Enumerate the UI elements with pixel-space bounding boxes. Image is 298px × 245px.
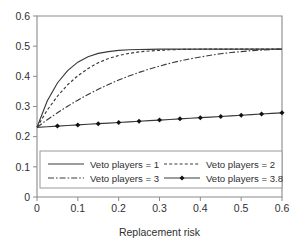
x-tick-label: 0.4 xyxy=(193,202,208,214)
y-tick-label: 0.5 xyxy=(15,40,30,52)
x-tick-label: 0 xyxy=(34,202,40,214)
line-chart: 00.10.20.30.40.50.6 00.10.20.30.40.50.6 … xyxy=(0,0,298,245)
x-tick-label: 0.3 xyxy=(152,202,167,214)
legend-label-1: Veto players = 2 xyxy=(206,159,275,170)
legend-label-0: Veto players = 1 xyxy=(90,159,159,170)
x-tick-label: 0.2 xyxy=(111,202,126,214)
x-tick-label: 0.6 xyxy=(275,202,290,214)
y-tick-label: 0.3 xyxy=(15,100,30,112)
legend-label-3: Veto players = 3.8 xyxy=(206,173,283,184)
y-axis-ticks: 00.10.20.30.40.50.6 xyxy=(15,10,37,203)
chart-figure: 00.10.20.30.40.50.6 00.10.20.30.40.50.6 … xyxy=(0,0,298,245)
x-axis-title: Replacement risk xyxy=(119,226,201,238)
y-tick-label: 0 xyxy=(24,191,30,203)
x-tick-label: 0.1 xyxy=(71,202,86,214)
chart-legend: Veto players = 1Veto players = 2Veto pla… xyxy=(40,151,283,188)
y-tick-label: 0.4 xyxy=(15,70,30,82)
x-axis-ticks: 00.10.20.30.40.50.6 xyxy=(34,197,289,214)
y-tick-label: 0.6 xyxy=(15,10,30,22)
y-tick-label: 0.1 xyxy=(15,161,30,173)
y-tick-label: 0.2 xyxy=(15,130,30,142)
legend-label-2: Veto players = 3 xyxy=(90,173,159,184)
x-tick-label: 0.5 xyxy=(234,202,249,214)
